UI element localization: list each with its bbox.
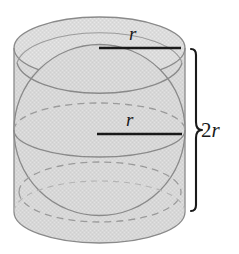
height-label-number: 2: [201, 118, 212, 142]
radius-label-middle: r: [126, 110, 133, 129]
height-label: 2r: [201, 120, 220, 141]
radius-label-top: r: [129, 24, 136, 43]
geometry-figure: r r 2r: [0, 0, 239, 254]
height-label-variable: r: [212, 118, 220, 142]
